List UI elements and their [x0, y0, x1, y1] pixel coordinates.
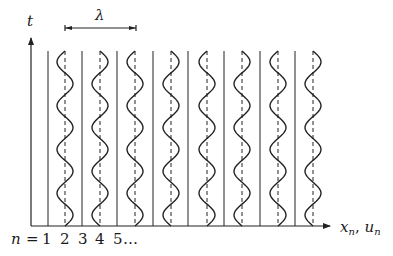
dashed-lines	[65, 51, 313, 226]
bracket-right-arrow-icon	[129, 26, 136, 30]
index-prefix: n	[11, 230, 21, 248]
index-ellipsis: …	[123, 230, 138, 248]
time-axis-label: t	[27, 12, 34, 30]
index-3: 3	[78, 230, 88, 248]
bracket-left-arrow-icon	[65, 26, 72, 30]
index-5: 5	[113, 230, 123, 248]
wavelength-label: λ	[94, 6, 105, 24]
space-axis-label: xn, un	[340, 218, 381, 237]
waves	[57, 51, 321, 226]
wave-lattice-diagram: t xn, un λ n = 1 2 3 4 5 …	[0, 0, 393, 256]
index-4: 4	[95, 230, 105, 248]
index-1: 1	[42, 230, 52, 248]
index-equals: =	[26, 230, 39, 248]
index-2: 2	[60, 230, 70, 248]
index-labels: n = 1 2 3 4 5 …	[11, 230, 138, 248]
wavelength-bracket	[65, 25, 136, 31]
